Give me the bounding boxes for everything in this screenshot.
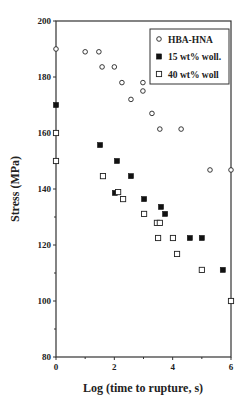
stress-rupture-chart: 80100120140160180200 0246 Log (time to r… — [0, 0, 246, 409]
y-axis-title: Stress (MPa) — [8, 156, 22, 222]
data-point — [157, 220, 162, 225]
legend-marker — [157, 37, 162, 42]
data-point — [162, 211, 167, 216]
y-tick-label: 180 — [38, 72, 52, 82]
data-point — [116, 189, 121, 194]
x-tick-label: 0 — [54, 362, 59, 372]
data-point — [114, 158, 119, 163]
data-point — [150, 111, 155, 116]
data-point — [220, 267, 225, 272]
x-axis-title: Log (time to rupture, s) — [83, 381, 203, 395]
legend-marker — [156, 71, 161, 76]
data-point — [53, 102, 58, 107]
x-tick-label: 6 — [229, 362, 234, 372]
y-tick-label: 120 — [38, 240, 52, 250]
data-point — [187, 235, 192, 240]
data-point — [129, 97, 134, 102]
y-tick-label: 140 — [38, 184, 52, 194]
data-point — [199, 235, 204, 240]
data-point — [53, 158, 58, 163]
data-point — [100, 174, 105, 179]
y-axis: 80100120140160180200 — [38, 16, 57, 362]
data-point — [174, 251, 179, 256]
data-point — [97, 142, 102, 147]
y-tick-label: 100 — [38, 296, 52, 306]
legend-label: 40 wt% woll — [168, 70, 219, 80]
data-point — [170, 235, 175, 240]
x-tick-label: 4 — [170, 362, 175, 372]
data-point — [53, 130, 58, 135]
data-point — [228, 298, 233, 303]
legend-label: HBA-HNA — [168, 35, 213, 45]
legend-label: 15 wt% woll. — [168, 52, 221, 62]
data-point — [158, 127, 163, 132]
legend-marker — [156, 54, 161, 59]
data-point — [54, 47, 59, 52]
y-tick-label: 200 — [38, 16, 52, 26]
data-point — [179, 127, 184, 132]
data-point — [208, 168, 213, 173]
x-axis: 0246 — [54, 357, 234, 372]
data-point — [112, 65, 117, 70]
data-point — [229, 168, 234, 173]
y-tick-label: 80 — [42, 352, 52, 362]
x-tick-label: 2 — [112, 362, 117, 372]
data-point — [141, 89, 146, 94]
data-point — [100, 65, 105, 70]
data-point — [141, 211, 146, 216]
series-40-wt-woll — [53, 130, 233, 303]
y-tick-label: 160 — [38, 128, 52, 138]
data-point — [141, 196, 146, 201]
data-point — [83, 50, 88, 55]
data-point — [199, 267, 204, 272]
data-point — [120, 80, 125, 85]
series-15-wt-woll- — [53, 102, 225, 272]
data-point — [158, 204, 163, 209]
legend: HBA-HNA15 wt% woll.40 wt% woll — [150, 29, 229, 84]
data-point — [141, 80, 146, 85]
data-points — [53, 47, 233, 304]
data-point — [97, 50, 102, 55]
data-point — [128, 174, 133, 179]
data-point — [155, 235, 160, 240]
data-point — [120, 196, 125, 201]
